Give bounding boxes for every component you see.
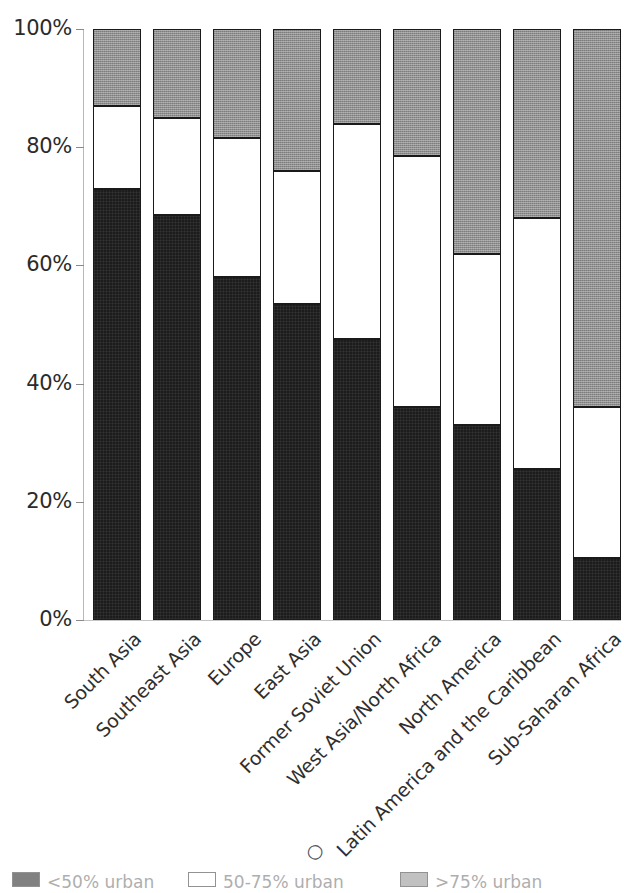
y-tick-label-60: 60% [2,254,72,275]
y-tick-label-40: 40% [2,373,72,394]
bar-segment-white[interactable] [453,254,501,425]
legend-item-white: 50-75% urban [188,872,344,893]
bar-segment-gray[interactable] [93,29,141,106]
bar-segment-gray[interactable] [153,29,201,118]
bar-segment-black[interactable] [333,339,381,620]
bar-east-asia[interactable] [273,29,321,620]
bar-europe[interactable] [213,29,261,620]
bar-segment-white[interactable] [153,118,201,216]
bar-segment-black[interactable] [393,407,441,620]
legend-swatch-black [12,872,40,887]
bar-segment-gray[interactable] [213,29,261,138]
bar-west-asia-north-africa[interactable] [393,29,441,620]
bar-segment-white[interactable] [393,156,441,407]
bar-segment-white[interactable] [573,407,621,558]
bar-segment-white[interactable] [273,171,321,304]
legend-swatch-gray [400,872,428,887]
bar-segment-gray[interactable] [273,29,321,171]
bar-segment-black[interactable] [213,277,261,620]
y-tick-label-0: 0% [2,609,72,630]
bar-north-america[interactable] [453,29,501,620]
y-tick-label-20: 20% [2,491,72,512]
plot-area [83,29,621,620]
bar-segment-gray[interactable] [333,29,381,124]
bar-segment-white[interactable] [93,106,141,189]
bar-segment-gray[interactable] [573,29,621,407]
legend-label: <50% urban [47,872,154,892]
legend-item-gray: >75% urban [400,872,542,893]
y-tick-label-100: 100% [2,18,72,39]
bar-segment-black[interactable] [93,189,141,620]
bar-segment-black[interactable] [513,469,561,620]
x-axis-baseline [83,620,621,621]
bar-southeast-asia[interactable] [153,29,201,620]
bar-segment-white[interactable] [333,124,381,340]
legend: <50% urban50-75% urban>75% urban [0,872,624,893]
bar-south-asia[interactable] [93,29,141,620]
bar-segment-black[interactable] [453,425,501,620]
legend-swatch-white [188,872,216,887]
bar-former-soviet-union[interactable] [333,29,381,620]
y-tick-mark-0 [76,620,84,621]
bar-segment-black[interactable] [573,558,621,620]
bar-segment-white[interactable] [513,218,561,469]
bar-segment-white[interactable] [213,138,261,277]
legend-item-black: <50% urban [12,872,154,893]
legend-label: 50-75% urban [223,872,344,892]
x-label-latin-america-and-the-caribbean: Latin America and the Caribbean [334,629,565,860]
legend-label: >75% urban [435,872,542,892]
bar-segment-gray[interactable] [453,29,501,254]
stacked-bar-chart: 100%80%60%40%20%0% South AsiaSoutheast A… [0,0,624,893]
cropped-label-glyph: ○ [300,837,327,864]
bar-segment-black[interactable] [153,215,201,620]
bar-sub-saharan-africa[interactable] [573,29,621,620]
y-tick-label-80: 80% [2,136,72,157]
bar-segment-black[interactable] [273,304,321,620]
bar-segment-gray[interactable] [393,29,441,156]
bar-latin-america-and-the-caribbean[interactable] [513,29,561,620]
bar-segment-gray[interactable] [513,29,561,218]
